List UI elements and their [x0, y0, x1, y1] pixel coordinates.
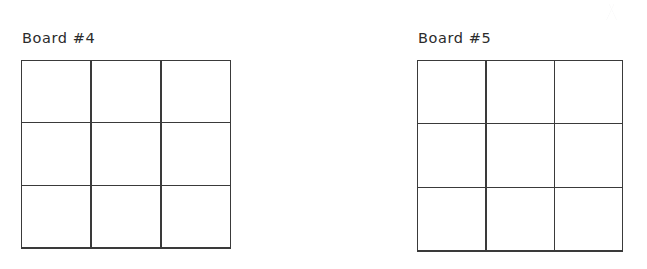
board-5-grid[interactable] [417, 60, 623, 252]
board-5-cell-r0c0[interactable] [418, 61, 485, 123]
board-4-cell-r0c2[interactable] [162, 61, 230, 122]
board-4-cell-r0c1[interactable] [92, 61, 160, 122]
board-4-cell-r2c0[interactable] [22, 186, 90, 247]
board-5-cell-r1c0[interactable] [418, 124, 485, 186]
scan-artifact [604, 4, 618, 20]
board-4-cell-r1c0[interactable] [22, 123, 90, 184]
board-4: Board #4 [21, 31, 231, 249]
board-4-cell-r1c2[interactable] [162, 123, 230, 184]
board-4-grid[interactable] [21, 60, 231, 249]
board-4-cell-r2c2[interactable] [162, 186, 230, 247]
board-5-cell-r1c1[interactable] [487, 124, 554, 186]
board-5-cell-r2c1[interactable] [487, 188, 554, 250]
board-5-label: Board #5 [418, 31, 623, 46]
board-4-cell-r0c0[interactable] [22, 61, 90, 122]
board-5-cell-r0c2[interactable] [555, 61, 622, 123]
board-5-cell-r0c1[interactable] [487, 61, 554, 123]
board-5-cell-r2c2[interactable] [555, 188, 622, 250]
board-4-cell-r1c1[interactable] [92, 123, 160, 184]
board-5-cell-r2c0[interactable] [418, 188, 485, 250]
board-5: Board #5 [417, 31, 623, 252]
board-4-label: Board #4 [22, 31, 231, 46]
worksheet-page: Board #4 Board #5 [0, 0, 647, 269]
board-4-cell-r2c1[interactable] [92, 186, 160, 247]
board-5-cell-r1c2[interactable] [555, 124, 622, 186]
